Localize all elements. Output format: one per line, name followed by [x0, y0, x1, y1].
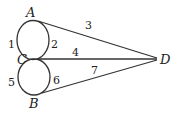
edge-6-label: 6: [53, 74, 60, 87]
node-D-label: D: [159, 52, 171, 67]
node-C-label: C: [17, 52, 27, 67]
edge-4-label: 4: [72, 46, 79, 59]
graph-canvas: A C B D 1 2 3 4 5 6 7: [0, 0, 175, 116]
node-B-label: B: [28, 96, 39, 111]
node-A-label: A: [25, 5, 35, 20]
edge-2-label: 2: [51, 38, 58, 51]
edge-3-label: 3: [85, 19, 92, 32]
graph-diagram: A C B D 1 2 3 4 5 6 7: [0, 0, 175, 116]
edge-5-label: 5: [8, 76, 15, 89]
edge-7-label: 7: [91, 64, 98, 77]
edge-1-label: 1: [8, 38, 15, 51]
